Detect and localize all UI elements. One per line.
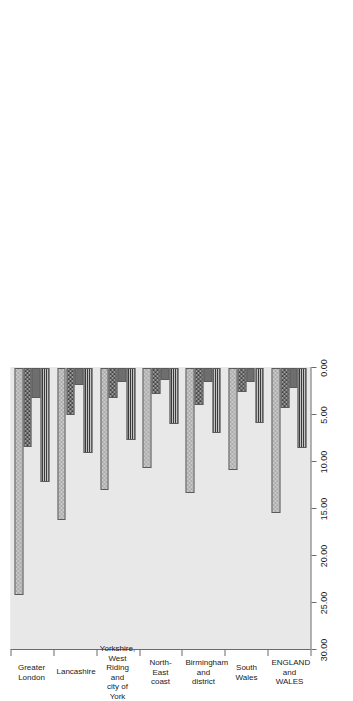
bar [126, 368, 135, 440]
bar [108, 368, 117, 398]
category-tick [96, 650, 97, 656]
bar [83, 368, 92, 453]
value-tick [311, 649, 316, 650]
value-tick [311, 602, 316, 603]
bar [228, 368, 237, 470]
category-label-line: North-East [142, 658, 178, 677]
category-label-line: and district [185, 667, 221, 686]
category-label-line: city of York [99, 682, 135, 701]
category-tick [181, 650, 182, 656]
category-label-line: South [228, 663, 264, 673]
category-label: Birminghamand district [185, 658, 221, 687]
category-tick [53, 650, 54, 656]
category-label-line: and WALES [271, 667, 307, 686]
category-label-line: Wales [228, 672, 264, 682]
bar [23, 368, 32, 447]
bar [31, 368, 40, 398]
category-label: GreaterLondon [13, 663, 49, 682]
value-tick [311, 414, 316, 415]
bar [57, 368, 66, 520]
category-label-line: Greater [13, 663, 49, 673]
bar [151, 368, 160, 394]
bar [237, 368, 246, 392]
bar [14, 368, 23, 595]
value-tick [311, 555, 316, 556]
bar [169, 368, 178, 424]
bar [255, 368, 264, 423]
category-tick [310, 650, 311, 656]
category-label: SouthWales [228, 663, 264, 682]
bar [160, 368, 169, 380]
value-tick-label: 30.00 [318, 620, 328, 680]
category-label: Yorkshire, WestRiding andcity of York [99, 644, 135, 701]
category-label-line: London [13, 672, 49, 682]
category-tick [139, 650, 140, 656]
bar [66, 368, 75, 415]
category-label-line: Lancashire [56, 667, 92, 677]
category-label-line: coast [142, 677, 178, 687]
bar [246, 368, 255, 382]
category-label: North-Eastcoast [142, 658, 178, 687]
plot-area [10, 367, 310, 650]
bar [297, 368, 306, 448]
category-label: Lancashire [56, 667, 92, 677]
bar [100, 368, 109, 490]
bar [142, 368, 151, 468]
bar [185, 368, 194, 493]
value-tick [311, 367, 316, 368]
bar [194, 368, 203, 405]
bar [203, 368, 212, 382]
category-label-line: ENGLAND [271, 658, 307, 668]
category-tick [267, 650, 268, 656]
value-tick [311, 461, 316, 462]
bar [117, 368, 126, 382]
bar [280, 368, 289, 408]
category-tick [224, 650, 225, 656]
value-tick [311, 508, 316, 509]
category-label-line: Riding and [99, 663, 135, 682]
category-label-line: Yorkshire, West [99, 644, 135, 663]
category-tick [10, 650, 11, 656]
bar [74, 368, 83, 385]
bar [289, 368, 298, 388]
category-label: ENGLANDand WALES [271, 658, 307, 687]
bar [271, 368, 280, 513]
bar [40, 368, 49, 482]
bar [212, 368, 221, 433]
category-label-line: Birmingham [185, 658, 221, 668]
